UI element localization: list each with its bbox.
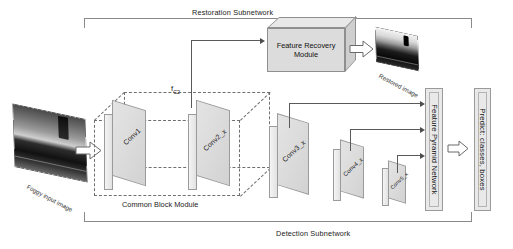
fc2-arrowhead xyxy=(260,38,265,44)
fc2-feature-label: fC2 xyxy=(171,84,180,95)
detection-subnetwork-label: Detection Subnetwork xyxy=(272,229,354,238)
feature-pyramid-network-label: Feature Pyramid Network xyxy=(430,104,439,195)
foggy-input-image-label: Foggy input image xyxy=(26,183,74,213)
conv5x-to-fpn-vline xyxy=(397,155,398,173)
conv4x-to-fpn-hline xyxy=(350,129,423,130)
feature-pyramid-network-panel: Feature Pyramid Network xyxy=(425,88,443,211)
prediction-head-label: Predict: classes, boxes xyxy=(478,108,487,190)
feature-recovery-module-top xyxy=(267,17,357,28)
conv3x-slab: Conv3_x xyxy=(277,118,309,190)
conv3x-to-fpn-hline xyxy=(289,103,423,104)
conv4x-slab: Conv4_x xyxy=(340,143,364,195)
conv4x-to-fpn-vline xyxy=(350,129,351,151)
fc2-horizontal-line xyxy=(191,40,263,41)
feature-recovery-module: Feature Recovery Module xyxy=(267,28,345,72)
fc2-vertical-line xyxy=(191,40,192,108)
fc2-subscript: C2 xyxy=(173,89,180,95)
conv2x-slab: Conv2_x xyxy=(196,105,230,181)
restoration-subnetwork-label: Restoration Subnetwork xyxy=(188,8,277,17)
common-block-module-caption: Common Block Module xyxy=(122,200,198,209)
restored-image xyxy=(375,27,418,70)
feature-recovery-module-line2: Module xyxy=(294,50,318,59)
common-block-frame-edge-br xyxy=(240,168,271,197)
conv3x-to-fpn-vline xyxy=(289,103,290,128)
detection-subnetwork-bracket xyxy=(84,212,472,222)
restored-image-pane xyxy=(375,27,418,70)
frm-to-restored-image-arrow xyxy=(350,41,374,57)
restored-image-label: Restored image xyxy=(378,72,420,99)
conv1-slab: Conv1 xyxy=(112,105,146,181)
feature-recovery-module-front: Feature Recovery Module xyxy=(267,28,345,72)
fpn-to-head-arrow xyxy=(448,141,469,156)
feature-recovery-module-line1: Feature Recovery xyxy=(277,41,336,50)
architecture-diagram: Restoration Subnetwork Detection Subnetw… xyxy=(0,0,513,249)
prediction-head-panel: Predict: classes, boxes xyxy=(474,88,491,211)
